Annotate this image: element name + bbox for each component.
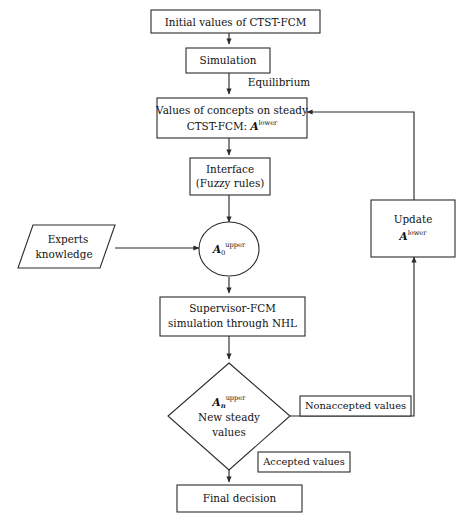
steady-values-prefix: CTST-FCM:: [187, 120, 251, 132]
node-initial-values[interactable]: Initial values of CTST-FCM: [151, 10, 320, 33]
decision-line2: New steady: [198, 411, 260, 423]
node-steady-values[interactable]: Values of concepts on steady CTST-FCM: A…: [155, 98, 308, 138]
a0-upper-ellipse[interactable]: [199, 222, 259, 276]
supervisor-line1: Supervisor-FCM: [189, 302, 276, 314]
final-decision-label: Final decision: [203, 492, 277, 504]
nonaccepted-values-label: Nonaccepted values: [305, 400, 406, 411]
update-superscript: lower: [408, 229, 428, 237]
node-final-decision[interactable]: Final decision: [177, 485, 302, 512]
a0-symbol: A: [212, 243, 221, 255]
node-update[interactable]: Update Alower: [371, 200, 455, 257]
edge-update-to-steady: [307, 112, 414, 200]
a0-subscript: 0: [221, 249, 225, 257]
node-accepted-values[interactable]: Accepted values: [258, 452, 350, 472]
decision-superscript: upper: [226, 394, 247, 402]
interface-line2: (Fuzzy rules): [196, 177, 265, 189]
node-experts-knowledge[interactable]: Experts knowledge: [18, 225, 115, 268]
decision-subscript: n: [221, 402, 226, 410]
simulation-label: Simulation: [200, 54, 257, 66]
flowchart-canvas: Initial values of CTST-FCM Simulation Eq…: [0, 0, 466, 529]
experts-knowledge-line1: Experts: [48, 233, 89, 245]
update-symbol: A: [399, 230, 408, 242]
node-nonaccepted-values[interactable]: Nonaccepted values: [300, 396, 411, 416]
update-line1: Update: [394, 213, 433, 225]
decision-line3: values: [211, 426, 246, 438]
decision-symbol: A: [212, 396, 221, 408]
node-supervisor[interactable]: Supervisor-FCM simulation through NHL: [160, 297, 305, 336]
node-interface[interactable]: Interface (Fuzzy rules): [190, 158, 270, 195]
experts-knowledge-parallelogram[interactable]: [18, 225, 115, 268]
supervisor-line2: simulation through NHL: [168, 317, 297, 329]
steady-values-line1: Values of concepts on steady: [155, 104, 308, 116]
flowchart-svg: Initial values of CTST-FCM Simulation Eq…: [0, 0, 466, 529]
a0-superscript: upper: [225, 241, 246, 249]
experts-knowledge-line2: knowledge: [35, 248, 92, 260]
node-simulation[interactable]: Simulation: [186, 48, 270, 73]
node-a0-upper[interactable]: A0upper: [199, 222, 259, 276]
edge-nonaccepted-to-update: [290, 257, 414, 416]
steady-values-superscript: lower: [258, 119, 278, 127]
interface-line1: Interface: [206, 163, 254, 175]
initial-values-label: Initial values of CTST-FCM: [165, 16, 307, 28]
equilibrium-edge-label: Equilibrium: [248, 76, 311, 88]
steady-values-symbol: A: [249, 120, 258, 132]
accepted-values-label: Accepted values: [262, 456, 345, 467]
